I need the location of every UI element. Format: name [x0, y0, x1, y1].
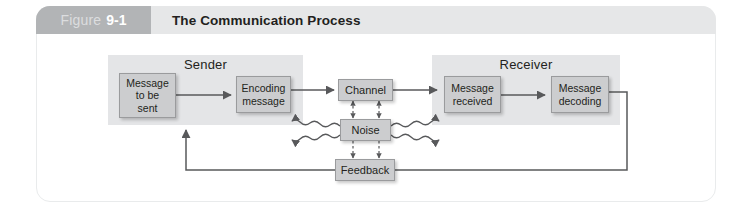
node-noise: Noise [340, 119, 391, 141]
node-channel: Channel [338, 79, 393, 101]
node-feedback: Feedback [335, 159, 395, 181]
node-message-decoding: Message decoding [551, 76, 609, 113]
noise-wave-lower-left [292, 134, 340, 141]
node-message-received: Message received [444, 76, 501, 113]
node-encoding-message: Encoding message [236, 76, 291, 113]
noise-wave-upper-left [292, 120, 340, 127]
node-message-to-be-sent: Message to be sent [119, 73, 176, 118]
diagram-connectors [0, 0, 746, 215]
noise-wave-upper-right [391, 120, 439, 127]
communication-process-diagram: Sender Receiver [0, 0, 746, 215]
feedback-return-path-left [186, 130, 335, 170]
noise-wave-lower-right [391, 134, 439, 141]
